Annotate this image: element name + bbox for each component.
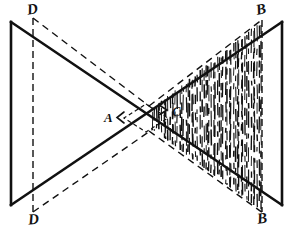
dashed-d-top-to-c [33,18,153,109]
point-label-a: A [104,111,113,124]
vertex-label-d-top: D [26,1,39,18]
hatched-shading-region [150,21,263,211]
vertex-label-b-bottom: B [256,210,268,226]
geometry-diagram [0,0,290,233]
point-label-c: C [171,105,181,119]
a-arrow-icon [117,112,124,123]
figure-canvas: D D B B A C [0,0,290,233]
vertex-label-d-bottom: D [27,212,39,228]
dashed-c-to-b-bottom [149,131,263,213]
dashed-d-bottom-to-c [33,129,153,212]
